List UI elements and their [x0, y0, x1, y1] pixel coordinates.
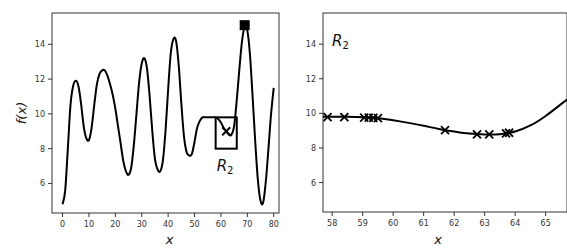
right-y-tick-label: 6 [311, 179, 316, 188]
right-x-axis-label: x [433, 232, 442, 247]
left-x-tick-label: 50 [189, 220, 199, 229]
left-axes-frame [52, 13, 279, 213]
region-r2-label: R2 [217, 157, 234, 176]
right-y-tick-label: 12 [306, 75, 316, 84]
right-x-ticks: 5859606162636465 [327, 212, 551, 228]
left-x-ticks: 01020304050607080 [60, 213, 279, 229]
left-y-ticks: 68101214 [35, 40, 52, 188]
figure: 01020304050607080 68101214 R2 x f(x) 585… [0, 0, 567, 250]
left-x-axis-label: x [165, 232, 174, 247]
left-y-tick-label: 6 [40, 179, 45, 188]
right-y-tick-label: 14 [306, 40, 316, 49]
right-x-tick-label: 58 [327, 219, 337, 228]
right-x-tick-label: 61 [419, 219, 429, 228]
maximum-square-marker [240, 20, 250, 30]
left-x-tick-label: 70 [242, 220, 252, 229]
left-plot: 01020304050607080 68101214 R2 x f(x) [14, 13, 279, 247]
left-x-tick-label: 40 [163, 220, 173, 229]
left-x-tick-label: 10 [84, 220, 94, 229]
right-y-ticks: 68101214 [306, 40, 323, 187]
left-function-curve [63, 26, 274, 204]
sample-x-marker-glyph [222, 127, 230, 135]
right-y-tick-label: 8 [311, 144, 316, 153]
right-region-label: R2 [332, 32, 349, 51]
right-x-tick-label: 62 [449, 219, 459, 228]
right-x-tick-label: 63 [480, 219, 490, 228]
sample-x-marker [222, 127, 230, 135]
right-x-tick-label: 59 [358, 219, 368, 228]
left-y-tick-label: 10 [35, 110, 45, 119]
left-y-axis-label: f(x) [14, 102, 29, 124]
right-x-tick-label: 60 [388, 219, 398, 228]
left-y-tick-label: 8 [40, 145, 45, 154]
right-axes-frame [323, 13, 567, 212]
left-x-tick-label: 30 [137, 220, 147, 229]
right-y-tick-label: 10 [306, 109, 316, 118]
left-x-tick-label: 20 [110, 220, 120, 229]
right-plot: 5859606162636465 68101214 R2 x [306, 13, 567, 247]
right-x-tick-label: 65 [541, 219, 551, 228]
left-y-tick-label: 12 [35, 75, 45, 84]
right-x-tick-label: 64 [510, 219, 520, 228]
left-y-tick-label: 14 [35, 40, 45, 49]
left-x-tick-label: 0 [60, 220, 65, 229]
left-x-tick-label: 60 [216, 220, 226, 229]
left-x-tick-label: 80 [269, 220, 279, 229]
